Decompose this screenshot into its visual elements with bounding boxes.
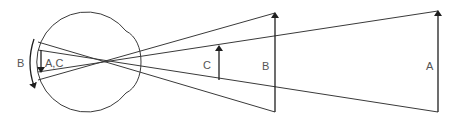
ray-a-bottom [38,50,438,112]
ray-b-bottom [38,42,275,112]
ray-a-top [38,11,438,72]
label-object-a: A [426,60,434,72]
ray-b-top [38,13,275,80]
retinal-image-b-arrow [30,39,34,86]
label-eye-ac: A,C [45,57,63,69]
label-object-c: C [203,59,211,71]
label-eye-b: B [17,57,24,69]
eye-diagram: B A,C C B A [0,0,458,123]
label-object-b: B [262,60,269,72]
